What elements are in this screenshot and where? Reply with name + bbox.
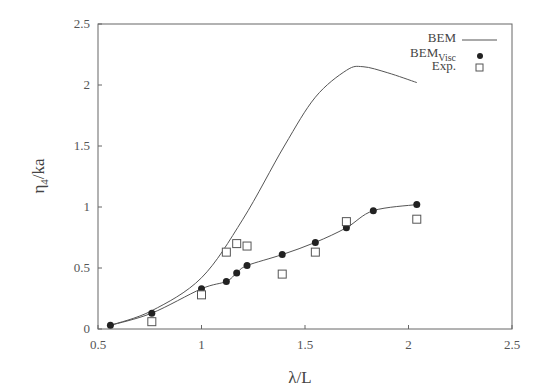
data-point — [148, 310, 155, 317]
data-point — [198, 291, 206, 299]
x-tick-label: 2 — [405, 337, 412, 352]
data-point — [233, 269, 240, 276]
data-point — [222, 248, 230, 256]
legend-open-square-icon — [476, 64, 483, 71]
data-point — [279, 251, 286, 258]
y-tick-label: 0.5 — [74, 260, 90, 275]
data-point — [278, 270, 286, 278]
data-point — [223, 278, 230, 285]
series-line — [110, 205, 416, 326]
data-point — [342, 218, 350, 226]
data-point — [370, 207, 377, 214]
y-tick-label: 1.5 — [74, 138, 90, 153]
legend: BEM BEMVisc Exp. — [410, 30, 497, 73]
data-point — [413, 215, 421, 223]
chart: 0.511.522.5 00.511.522.5 λ/L η4/ka BEM B… — [0, 0, 554, 392]
legend-filled-circle-icon — [477, 53, 483, 59]
data-point — [243, 242, 251, 250]
data-point — [244, 262, 251, 269]
data-point — [413, 201, 420, 208]
x-tick-label: 2.5 — [504, 337, 520, 352]
y-tick-label: 0 — [84, 321, 91, 336]
data-point — [233, 240, 241, 248]
y-tick-label: 1 — [84, 199, 91, 214]
x-tick-label: 1.5 — [297, 337, 313, 352]
y-axis-label: η4/ka — [29, 158, 50, 194]
x-tick-label: 0.5 — [90, 337, 106, 352]
y-tick-label: 2 — [84, 77, 91, 92]
series-line — [110, 66, 416, 325]
svg-text:BEM: BEM — [428, 30, 457, 45]
plot-series — [107, 66, 421, 329]
x-axis-label: λ/L — [288, 368, 311, 387]
data-point — [148, 318, 156, 326]
data-point — [312, 239, 319, 246]
x-tick-label: 1 — [198, 337, 205, 352]
data-point — [311, 248, 319, 256]
svg-text:Exp.: Exp. — [432, 58, 456, 73]
data-point — [107, 322, 114, 329]
y-tick-label: 2.5 — [74, 16, 90, 31]
